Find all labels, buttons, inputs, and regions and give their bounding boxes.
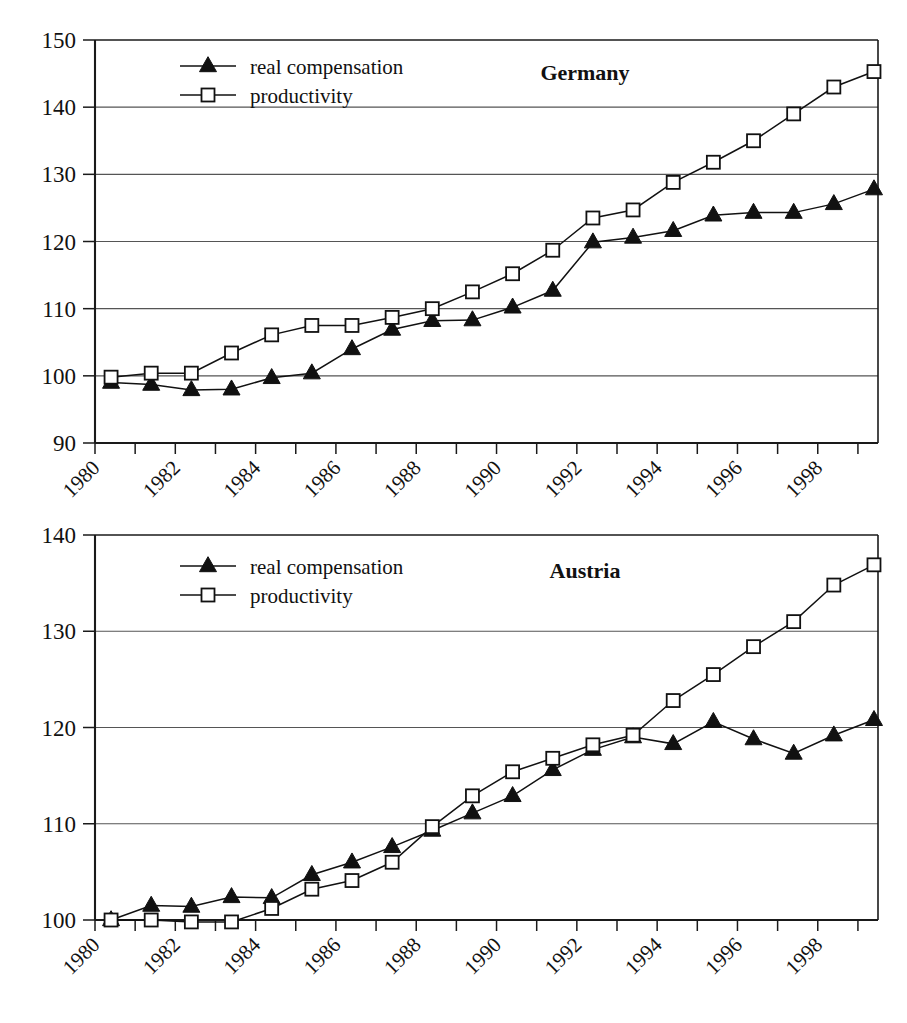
data-point-marker-square [386, 311, 399, 324]
data-point-marker-triangle [504, 787, 521, 802]
x-tick-label: 1980 [58, 456, 105, 503]
data-point-marker-triangle [143, 896, 160, 911]
legend-label-real-compensation: real compensation [250, 55, 404, 79]
x-tick-label: 1986 [299, 933, 346, 980]
y-tick-label: 130 [42, 619, 77, 644]
data-point-marker-square [586, 211, 599, 224]
x-tick-label: 1992 [540, 456, 587, 503]
data-point-marker-square [145, 367, 158, 380]
legend-label-productivity: productivity [250, 584, 353, 608]
data-point-marker-square [747, 134, 760, 147]
data-point-marker-triangle [343, 340, 360, 355]
x-tick-label: 1998 [781, 933, 828, 980]
data-point-marker-square [265, 902, 278, 915]
x-tick-label: 1988 [379, 456, 426, 503]
data-point-marker-square [546, 752, 559, 765]
x-tick-label: 1984 [218, 932, 265, 979]
data-point-marker-square [386, 856, 399, 869]
x-tick-label: 1992 [540, 933, 587, 980]
legend-marker-triangle [200, 57, 217, 72]
series-line-2 [111, 72, 874, 378]
data-point-marker-square [305, 319, 318, 332]
legend-label-real-compensation: real compensation [250, 555, 404, 579]
data-point-marker-square [105, 914, 118, 927]
data-point-marker-square [627, 203, 640, 216]
data-point-marker-square [305, 883, 318, 896]
panel-title: Austria [550, 558, 621, 583]
data-point-marker-square [867, 65, 880, 78]
data-point-marker-square [506, 765, 519, 778]
data-point-marker-square [787, 107, 800, 120]
data-point-marker-triangle [705, 712, 722, 727]
series-line-1 [111, 720, 874, 920]
data-point-marker-square [345, 319, 358, 332]
data-point-marker-square [787, 615, 800, 628]
x-tick-label: 1980 [58, 933, 105, 980]
y-tick-label: 120 [42, 716, 77, 741]
data-point-marker-square [145, 914, 158, 927]
data-point-marker-square [707, 156, 720, 169]
data-point-marker-triangle [745, 203, 762, 218]
data-point-marker-square [225, 346, 238, 359]
data-point-marker-square [466, 789, 479, 802]
x-tick-label: 1982 [138, 456, 185, 503]
x-tick-label: 1990 [459, 933, 506, 980]
chart-panel-austria: 1001101201301401980198219841986198819901… [0, 520, 907, 1023]
data-point-marker-square [466, 285, 479, 298]
y-tick-label: 140 [42, 523, 77, 548]
x-tick-label: 1996 [700, 933, 747, 980]
data-point-marker-square [627, 729, 640, 742]
data-point-marker-triangle [865, 180, 882, 195]
data-point-marker-square [426, 820, 439, 833]
two-panel-line-chart-figure: 9010011012013014015019801982198419861988… [0, 0, 907, 1023]
data-point-marker-square [265, 328, 278, 341]
x-tick-label: 1998 [781, 456, 828, 503]
y-tick-label: 100 [42, 364, 77, 389]
data-point-marker-square [506, 267, 519, 280]
data-point-marker-square [827, 81, 840, 94]
data-point-marker-triangle [303, 364, 320, 379]
panel-title: Germany [540, 60, 629, 85]
data-point-marker-square [707, 668, 720, 681]
data-point-marker-square [827, 579, 840, 592]
data-point-marker-square [667, 694, 680, 707]
x-tick-label: 1996 [700, 456, 747, 503]
legend-marker-triangle [200, 557, 217, 572]
data-point-marker-square [426, 302, 439, 315]
y-tick-label: 90 [53, 431, 76, 456]
data-point-marker-triangle [705, 206, 722, 221]
data-point-marker-triangle [223, 888, 240, 903]
x-tick-label: 1994 [620, 932, 667, 979]
y-tick-label: 150 [42, 28, 77, 53]
data-point-marker-square [747, 640, 760, 653]
y-tick-label: 110 [42, 297, 76, 322]
data-point-marker-triangle [183, 381, 200, 396]
data-point-marker-square [546, 244, 559, 257]
germany-chart-svg: 9010011012013014015019801982198419861988… [0, 0, 907, 530]
x-tick-label: 1990 [459, 456, 506, 503]
data-point-marker-triangle [584, 233, 601, 248]
data-point-marker-triangle [865, 711, 882, 726]
data-point-marker-square [225, 915, 238, 928]
data-point-marker-square [185, 915, 198, 928]
legend-marker-square [202, 589, 215, 602]
x-tick-label: 1986 [299, 456, 346, 503]
x-tick-label: 1984 [218, 455, 265, 502]
data-point-marker-square [667, 176, 680, 189]
x-tick-label: 1988 [379, 933, 426, 980]
data-point-marker-square [345, 874, 358, 887]
data-point-marker-triangle [625, 228, 642, 243]
data-point-marker-square [185, 367, 198, 380]
y-tick-label: 130 [42, 162, 77, 187]
data-point-marker-square [105, 371, 118, 384]
x-tick-label: 1994 [620, 455, 667, 502]
y-tick-label: 120 [42, 230, 77, 255]
legend-marker-square [202, 89, 215, 102]
austria-chart-svg: 1001101201301401980198219841986198819901… [0, 520, 907, 1023]
chart-panel-germany: 9010011012013014015019801982198419861988… [0, 0, 907, 530]
data-point-marker-square [586, 738, 599, 751]
data-point-marker-square [867, 558, 880, 571]
y-tick-label: 140 [42, 95, 77, 120]
data-point-marker-triangle [665, 735, 682, 750]
legend-label-productivity: productivity [250, 84, 353, 108]
